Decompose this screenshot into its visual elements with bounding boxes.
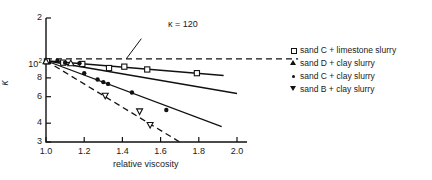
y-axis-title: κ	[0, 81, 10, 86]
open-triangle-up-icon	[286, 57, 300, 69]
legend-item[interactable]: sand C + limestone slurry	[286, 44, 432, 56]
chart-legend: sand C + limestone slurrysand D + clay s…	[286, 44, 432, 96]
x-tick-label: 2.0	[228, 147, 246, 156]
x-axis-title: relative viscosity	[113, 160, 179, 169]
x-tick-label: 1.4	[113, 147, 131, 156]
y-tick-label: 2	[16, 13, 42, 22]
kappa-annotation: κ = 120	[168, 20, 198, 29]
chart-figure: 2 102 8 6 4 3 1.0 1.2 1.4 1.6 1.8 2.0 κ …	[0, 0, 432, 180]
legend-item-label: sand C + limestone slurry	[300, 46, 396, 55]
legend-item-label: sand D + clay slurry	[300, 59, 375, 68]
x-tick-label: 1.8	[190, 147, 208, 156]
x-tick-label: 1.2	[75, 147, 93, 156]
legend-item[interactable]: sand B + clay slurry	[286, 83, 432, 95]
x-tick-label: 1.0	[37, 147, 55, 156]
y-tick-label: 102	[16, 58, 42, 69]
open-triangle-down-icon	[286, 83, 300, 95]
open-square-icon	[286, 44, 300, 56]
y-tick-label: 6	[16, 92, 42, 101]
legend-item-label: sand B + clay slurry	[300, 85, 374, 94]
legend-item[interactable]: sand D + clay slurry	[286, 57, 432, 69]
y-tick-label: 8	[16, 73, 42, 82]
x-tick-label: 1.6	[152, 147, 170, 156]
y-tick-label: 4	[16, 118, 42, 127]
legend-item-label: sand C + clay slurry	[300, 72, 375, 81]
legend-item[interactable]: sand C + clay slurry	[286, 70, 432, 82]
y-tick-label: 3	[16, 137, 42, 146]
filled-circle-icon	[286, 70, 300, 82]
